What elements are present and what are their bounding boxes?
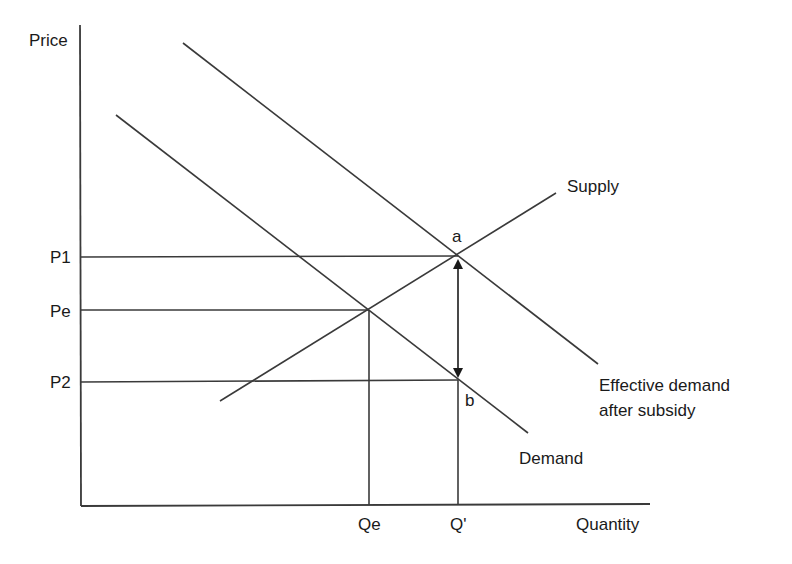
p1-guide-line [81, 256, 458, 257]
y-axis [80, 25, 81, 506]
subsidy-diagram: Price Quantity P1 Pe P2 Qe Q' Supply Dem… [0, 0, 792, 564]
quantity-label-qprime: Q' [450, 515, 466, 534]
effective-demand-label-line1: Effective demand [599, 376, 730, 395]
x-axis-label: Quantity [576, 515, 640, 534]
quantity-label-qe: Qe [358, 515, 381, 534]
point-b-label: b [465, 391, 474, 410]
x-axis [81, 504, 650, 506]
price-label-pe: Pe [50, 302, 71, 321]
effective-demand-curve [183, 43, 598, 364]
diagram-svg: Price Quantity P1 Pe P2 Qe Q' Supply Dem… [0, 0, 792, 564]
point-a-label: a [452, 227, 462, 246]
y-axis-label: Price [29, 31, 68, 50]
demand-label: Demand [519, 449, 583, 468]
demand-curve [116, 115, 528, 433]
effective-demand-label-line2: after subsidy [599, 401, 696, 420]
p2-guide-line [81, 380, 458, 382]
price-label-p1: P1 [50, 248, 71, 267]
price-label-p2: P2 [50, 373, 71, 392]
supply-label: Supply [567, 177, 619, 196]
supply-curve [220, 193, 556, 401]
